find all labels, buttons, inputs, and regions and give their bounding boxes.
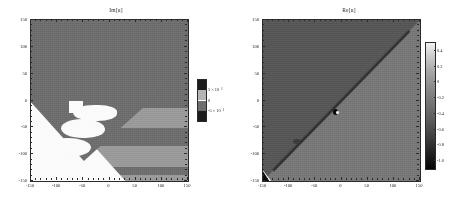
x-tick-top-minor [398, 19, 399, 21]
x-tick-minor [88, 178, 89, 180]
x-tick-top-major [135, 19, 136, 22]
x-tick-minor [150, 178, 151, 180]
colorbar-tick [434, 144, 436, 145]
x-tick-label: -50 [311, 183, 317, 188]
y-tick-right-minor [185, 159, 187, 160]
x-tick-minor [129, 178, 130, 180]
x-tick-top-minor [72, 19, 73, 21]
x-tick-minor [93, 178, 94, 180]
y-tick-right-minor [417, 57, 419, 58]
y-tick-major [30, 100, 33, 101]
x-tick-label: 50 [364, 183, 369, 188]
colorbar-tick-label: -0.4 [437, 110, 444, 115]
colorbar-label-im-u-0: 5 × 10⁻⁶ [208, 87, 223, 92]
y-tick-right-major [416, 73, 419, 74]
x-tick-minor [182, 178, 183, 180]
x-tick-label: 0 [339, 183, 341, 188]
colorbar-tick [434, 129, 436, 130]
x-tick-minor [372, 178, 373, 180]
y-tick-major [262, 180, 265, 181]
x-tick-minor [335, 178, 336, 180]
y-tick-right-minor [417, 94, 419, 95]
y-tick-minor [30, 116, 32, 117]
y-tick-right-minor [417, 175, 419, 176]
x-tick-top-minor [98, 19, 99, 21]
x-tick-minor [293, 178, 294, 180]
density-field-re-u [263, 20, 420, 181]
y-tick-label: 150 [245, 17, 259, 22]
x-tick-label: 150 [184, 183, 191, 188]
y-tick-label: -150 [13, 178, 27, 183]
y-tick-major [262, 19, 265, 20]
x-tick-top-minor [156, 19, 157, 21]
y-tick-right-major [184, 46, 187, 47]
y-tick-minor [30, 78, 32, 79]
x-tick-top-major [288, 19, 289, 22]
y-tick-label: -50 [245, 124, 259, 129]
colorbar-tick-label: 0.4 [437, 47, 443, 52]
colorbar-tick-label: -0.6 [437, 126, 444, 131]
figure-canvas: Im[u] -150-100-50050 [0, 0, 465, 208]
y-tick-right-major [416, 180, 419, 181]
x-tick-label: 0 [107, 183, 109, 188]
x-tick-top-minor [320, 19, 321, 21]
x-tick-minor [267, 178, 268, 180]
y-tick-right-minor [417, 137, 419, 138]
x-tick-top-minor [35, 19, 36, 21]
colorbar-segment-top [198, 80, 206, 90]
x-tick-top-minor [335, 19, 336, 21]
y-tick-right-minor [185, 116, 187, 117]
x-tick-top-minor [293, 19, 294, 21]
y-tick-right-major [184, 73, 187, 74]
y-tick-major [30, 180, 33, 181]
colorbar-segment-bottom [198, 111, 206, 121]
colorbar-tick-label: -0.8 [437, 142, 444, 147]
x-tick-top-minor [119, 19, 120, 21]
x-tick-top-minor [40, 19, 41, 21]
x-tick-top-minor [283, 19, 284, 21]
colorbar-tick [434, 113, 436, 114]
x-tick-major [288, 177, 289, 180]
y-tick-label: 0 [245, 97, 259, 102]
x-tick-minor [119, 178, 120, 180]
x-tick-minor [140, 178, 141, 180]
x-tick-major [161, 177, 162, 180]
y-tick-minor [30, 30, 32, 31]
x-tick-major [419, 177, 420, 180]
x-tick-top-minor [403, 19, 404, 21]
plot-frame-im-u [30, 19, 189, 182]
colorbar-tick-label: -0.2 [437, 95, 444, 100]
y-tick-right-minor [417, 62, 419, 63]
x-tick-top-minor [409, 19, 410, 21]
x-tick-major [82, 177, 83, 180]
x-tick-top-minor [309, 19, 310, 21]
y-tick-minor [30, 51, 32, 52]
y-tick-minor [262, 94, 264, 95]
colorbar-tick-label: 0 [437, 79, 439, 84]
colorbar-segment-mid [198, 101, 206, 112]
x-tick-top-minor [372, 19, 373, 21]
x-tick-minor [299, 178, 300, 180]
x-tick-label: -100 [52, 183, 60, 188]
y-tick-right-minor [417, 159, 419, 160]
x-tick-top-minor [414, 19, 415, 21]
y-tick-right-minor [417, 116, 419, 117]
x-tick-minor [361, 178, 362, 180]
x-tick-top-major [187, 19, 188, 22]
y-tick-right-minor [417, 30, 419, 31]
x-tick-minor [403, 178, 404, 180]
x-tick-major [367, 177, 368, 180]
y-tick-minor [30, 62, 32, 63]
y-tick-minor [262, 137, 264, 138]
y-tick-minor [30, 110, 32, 111]
x-tick-minor [166, 178, 167, 180]
x-tick-minor [388, 178, 389, 180]
y-tick-right-minor [417, 148, 419, 149]
y-tick-minor [262, 24, 264, 25]
y-tick-minor [30, 94, 32, 95]
y-tick-minor [30, 67, 32, 68]
y-tick-minor [262, 175, 264, 176]
y-tick-minor [262, 35, 264, 36]
x-tick-minor [177, 178, 178, 180]
y-tick-minor [262, 116, 264, 117]
